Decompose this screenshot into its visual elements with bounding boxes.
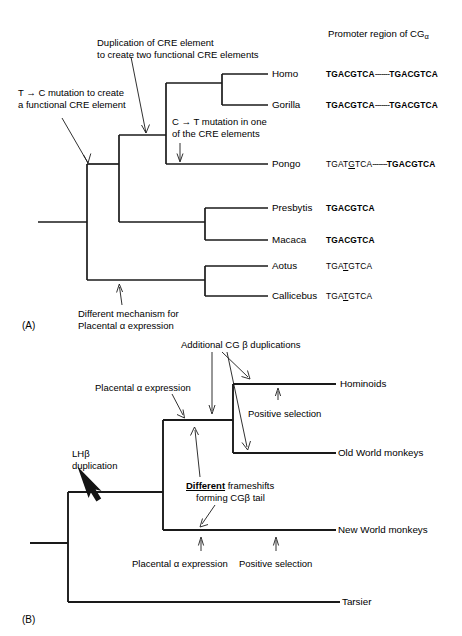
figure-root: Promoter region of CGα Duplication of CR… [0,0,462,636]
panel-b-label: (B) [22,614,35,625]
annotation-positive-selection-upper: Positive selection [248,408,321,420]
arrow-lhb-duplication [78,467,102,502]
annotation-lhb-line1: LHβ [72,448,90,460]
annotation-different-frameshifts-line1: Different frameshifts [186,480,274,492]
arrow-different-frameshifts-lower [202,505,215,524]
arrow-placental-alpha-upper [172,394,183,415]
annotation-lhb-line2: duplication [72,460,117,472]
annotation-placental-alpha-lower: Placental α expression [132,558,228,570]
tip-label-old-world-monkeys: Old World monkeys [338,447,423,458]
annotation-positive-selection-lower: Positive selection [239,558,312,570]
different-word: Different [186,480,225,491]
annotation-placental-alpha-upper: Placental α expression [95,382,191,394]
frameshifts-word: frameshifts [225,480,274,491]
tip-label-tarsier: Tarsier [342,596,371,607]
tip-label-hominoids: Hominoids [340,378,386,389]
annotation-different-frameshifts-line2: forming CGβ tail [196,492,265,504]
annotation-additional-cgb: Additional CG β duplications [181,339,301,351]
arrow-additional-cgb-hominoids [222,352,248,377]
panel-b-tree-lines [0,0,462,636]
arrow-different-frameshifts-upper [195,430,200,477]
tip-label-new-world-monkeys: New World monkeys [338,524,428,535]
